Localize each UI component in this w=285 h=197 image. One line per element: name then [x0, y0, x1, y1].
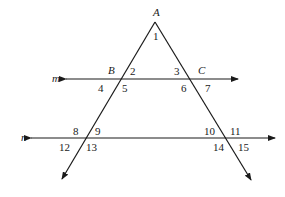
- angle-3-label: 3: [174, 66, 180, 77]
- angle-15-label: 15: [238, 142, 249, 153]
- angle-10-label: 10: [204, 126, 215, 137]
- angle-14-label: 14: [213, 142, 224, 153]
- transversal-right: [155, 22, 251, 180]
- angle-13-label: 13: [86, 142, 97, 153]
- transversal-left: [62, 22, 155, 179]
- angle-6-label: 6: [181, 83, 187, 94]
- angle-1-label: 1: [153, 31, 159, 42]
- angle-2-label: 2: [130, 66, 136, 77]
- point-c-label: C: [198, 65, 205, 76]
- angle-7-label: 7: [205, 83, 211, 94]
- angle-8-label: 8: [73, 126, 79, 137]
- angle-5-label: 5: [122, 83, 128, 94]
- diagram-lines: [0, 0, 285, 197]
- diagram-canvas: A B C m n 1 2 3 4 5 6 7 8 9 10 11 12 13 …: [0, 0, 285, 197]
- angle-11-label: 11: [230, 126, 241, 137]
- angle-9-label: 9: [95, 126, 101, 137]
- line-m-label: m: [52, 73, 60, 84]
- point-b-label: B: [108, 65, 115, 76]
- line-n-label: n: [21, 132, 27, 143]
- angle-12-label: 12: [59, 142, 70, 153]
- point-a-label: A: [153, 7, 160, 18]
- angle-4-label: 4: [98, 83, 104, 94]
